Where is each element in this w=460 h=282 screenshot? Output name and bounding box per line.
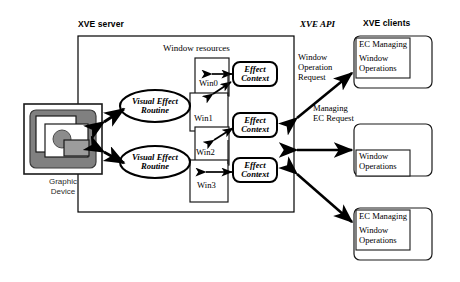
window-box-win2	[195, 127, 229, 165]
api-msg-managing-ec-request-line2: EC Request	[313, 114, 354, 123]
window-resources-label: Window resources	[163, 44, 230, 54]
diagram-canvas: XVE server XVE API XVE clients Window re…	[0, 0, 460, 282]
client-top-inner-line2: Window	[359, 54, 388, 63]
client-top-inner-line3: Operations	[359, 64, 397, 73]
visual-effect-routine-top-line2: Routine	[120, 106, 190, 115]
api-msg-window-operation-request-line2: Operation	[298, 63, 332, 72]
visual-effect-routine-bottom-line2: Routine	[120, 162, 190, 171]
xve-server-label: XVE server	[78, 20, 124, 29]
arrow-api-bottom	[297, 174, 352, 222]
window-box-win0	[195, 58, 229, 96]
graphic-device-label-line1: Graphic	[28, 178, 98, 187]
graphic-device-label-line2: Device	[28, 188, 98, 197]
xve-clients-label: XVE clients	[363, 19, 410, 28]
effect-context-2-line2: Context	[233, 170, 277, 179]
window-label-win2: Win2	[196, 148, 215, 157]
window-box-win1	[190, 93, 228, 131]
window-label-win1: Win1	[194, 114, 213, 123]
window-label-win3: Win3	[197, 181, 216, 190]
effect-context-1-line2: Context	[233, 125, 277, 134]
api-msg-managing-ec-request-line1: Managing	[313, 104, 348, 113]
client-middle-inner-line2: Window	[359, 152, 388, 161]
xve-api-label: XVE API	[300, 20, 335, 30]
client-bottom-inner-line3: Operations	[359, 236, 397, 245]
client-bottom-inner-line2: Window	[359, 226, 388, 235]
window-label-win0: Win0	[199, 79, 218, 88]
api-msg-window-operation-request-line1: Window	[298, 53, 327, 62]
client-middle-inner-line3: Operations	[359, 162, 397, 171]
effect-context-0-line2: Context	[233, 74, 277, 83]
api-msg-window-operation-request-line3: Request	[298, 73, 326, 82]
client-bottom-inner-line1: EC Managing	[359, 212, 407, 221]
client-top-inner-line1: EC Managing	[359, 40, 407, 49]
graphic-device-graphic	[24, 104, 102, 174]
